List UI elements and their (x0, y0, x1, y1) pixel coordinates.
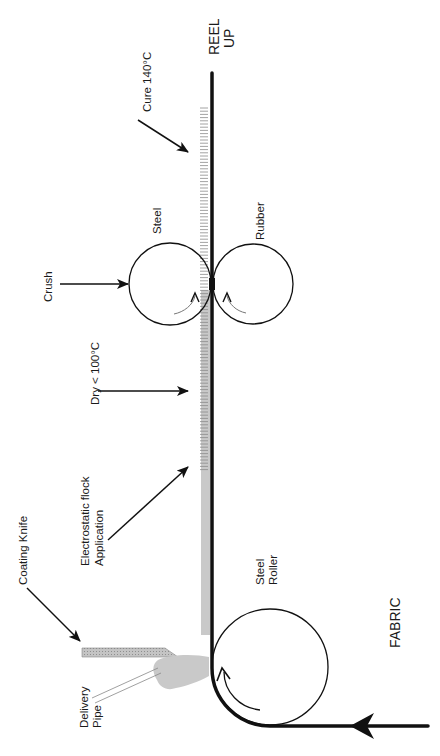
delivery-pipe-label-line1: Delivery (78, 686, 90, 728)
steel-crush-roller (129, 243, 211, 325)
cure-label: Cure 140°C (141, 52, 153, 112)
dry-label: Dry < 100°C (89, 342, 101, 405)
steel-top-label: Steel (151, 208, 163, 234)
flock-coating-process-diagram: REEL UP Cure 140°C Steel Rubber Crush Dr… (0, 0, 440, 756)
rubber-crush-roller (213, 244, 293, 324)
flock-hatching (200, 108, 208, 470)
rubber-label: Rubber (254, 202, 266, 240)
delivery-pipe-label-line2: Pipe (91, 705, 103, 728)
flock-arrow-icon (108, 467, 188, 540)
flock-label-line1: Electrostatic flock (79, 476, 91, 566)
coating-paste (153, 655, 209, 689)
coating-knife-label: Coating Knife (17, 516, 29, 585)
steel-roller-label-line2: Roller (267, 555, 279, 585)
coating-knife (82, 648, 178, 657)
delivery-pipe-wall (95, 673, 161, 703)
crush-label: Crush (42, 271, 54, 302)
delivery-pipe (92, 668, 158, 698)
reel-up-label-line2: UP (221, 29, 237, 48)
nip-point (209, 278, 215, 290)
flock-label-line2: Application (93, 510, 105, 566)
reel-up-label: REEL (206, 18, 222, 55)
steel-roller-label-line1: Steel (254, 559, 266, 585)
steel-roller (212, 609, 328, 725)
fabric-label: FABRIC (387, 597, 403, 648)
coating-knife-arrow-icon (27, 588, 80, 641)
cure-arrow-icon (138, 120, 188, 152)
